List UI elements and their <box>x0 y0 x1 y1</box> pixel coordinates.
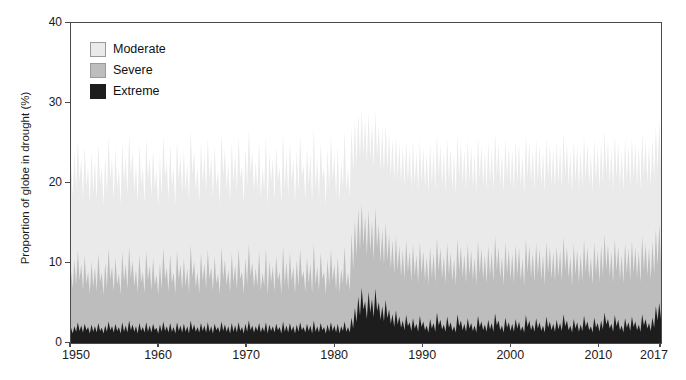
x-tick-label: 2017 <box>624 348 684 362</box>
x-tick-label: 1980 <box>304 348 364 362</box>
chart-legend: ModerateSevereExtreme <box>90 41 166 100</box>
legend-label: Extreme <box>113 84 160 99</box>
legend-swatch-extreme <box>90 84 106 99</box>
y-tick-label: 30 <box>24 96 62 108</box>
drought-area-chart: Proportion of globe in drought (%) 01020… <box>0 0 686 380</box>
y-tick-label: 0 <box>24 336 62 348</box>
x-tick-label: 1960 <box>128 348 188 362</box>
legend-swatch-moderate <box>90 42 106 57</box>
y-tick-label: 10 <box>24 256 62 268</box>
legend-item: Severe <box>90 62 166 79</box>
legend-item: Extreme <box>90 83 166 100</box>
x-tick-label: 1970 <box>216 348 276 362</box>
x-tick-label: 2010 <box>568 348 628 362</box>
legend-label: Severe <box>113 63 153 78</box>
x-tick-label: 1990 <box>392 348 452 362</box>
y-tick-label: 20 <box>24 176 62 188</box>
legend-swatch-severe <box>90 63 106 78</box>
x-tick-label: 2000 <box>480 348 540 362</box>
x-tick-label: 1950 <box>46 348 106 362</box>
y-tick-label: 40 <box>24 16 62 28</box>
legend-label: Moderate <box>113 42 166 57</box>
legend-item: Moderate <box>90 41 166 58</box>
